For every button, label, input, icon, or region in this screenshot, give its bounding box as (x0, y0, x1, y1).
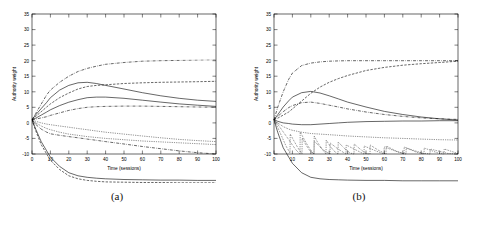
x-ticklabel: 100 (212, 157, 220, 162)
y-ticks-a (32, 14, 216, 154)
y-ticklabel: 20 (266, 59, 272, 64)
caption-a: (a) (6, 190, 228, 202)
y-ticklabel: -10 (22, 152, 29, 157)
axes-frame-a (32, 14, 216, 154)
x-ticks-b (274, 14, 458, 154)
curves-a (32, 60, 216, 183)
x-ticklabel: 40 (345, 157, 351, 162)
x-ticklabel: 0 (31, 157, 34, 162)
plot-a: -10 -5 0 5 10 15 20 25 30 35 (6, 6, 228, 186)
y-ticklabel: 25 (24, 43, 30, 48)
x-ticklabel: 40 (103, 157, 109, 162)
y-ticklabel: 30 (266, 27, 272, 32)
y-axis-label: Authority weight (12, 66, 17, 101)
y-ticklabel: 25 (266, 43, 272, 48)
x-ticklabel: 60 (382, 157, 388, 162)
panel-b: -10 -5 0 5 10 15 20 25 30 35 (248, 6, 470, 186)
x-ticklabel: 80 (419, 157, 425, 162)
x-ticklabels-b: 0 10 20 30 40 50 60 70 80 90 100 (273, 157, 463, 162)
x-ticklabel: 80 (177, 157, 183, 162)
figure: -10 -5 0 5 10 15 20 25 30 35 (0, 0, 480, 227)
x-ticklabel: 30 (327, 157, 333, 162)
y-ticklabel: -5 (267, 136, 272, 141)
x-ticklabel: 50 (121, 157, 127, 162)
y-ticklabel: 10 (24, 90, 30, 95)
y-ticklabels-b: -10 -5 0 5 10 15 20 25 30 35 (264, 12, 271, 157)
x-ticklabels-a: 0 10 20 30 40 50 60 70 80 90 100 (31, 157, 221, 162)
y-ticklabel: 0 (26, 121, 29, 126)
y-ticklabel: 30 (24, 27, 30, 32)
x-ticklabel: 20 (308, 157, 314, 162)
x-axis-label: Time (sessions) (107, 166, 141, 171)
y-ticklabels-a: -10 -5 0 5 10 15 20 25 30 35 (22, 12, 29, 157)
y-ticklabel: -10 (264, 152, 271, 157)
caption-b: (b) (248, 190, 470, 202)
x-axis-label: Time (sessions) (349, 166, 383, 171)
x-ticklabel: 100 (454, 157, 462, 162)
y-ticklabel: 0 (268, 121, 271, 126)
axes-frame-b (274, 14, 458, 154)
x-ticklabel: 0 (273, 157, 276, 162)
x-ticklabel: 70 (400, 157, 406, 162)
y-axis-label: Authority weight (254, 66, 259, 101)
x-ticklabel: 20 (66, 157, 72, 162)
x-ticklabel: 70 (158, 157, 164, 162)
panel-a: -10 -5 0 5 10 15 20 25 30 35 (6, 6, 228, 186)
plot-b: -10 -5 0 5 10 15 20 25 30 35 (248, 6, 470, 186)
curves-b (274, 61, 458, 181)
y-ticklabel: -5 (25, 136, 30, 141)
x-ticklabel: 90 (437, 157, 443, 162)
y-ticklabel: 20 (24, 59, 30, 64)
y-ticklabel: 5 (26, 105, 29, 110)
y-ticklabel: 10 (266, 90, 272, 95)
x-ticklabel: 10 (290, 157, 296, 162)
x-ticklabel: 90 (195, 157, 201, 162)
y-ticks-b (274, 14, 458, 154)
y-ticklabel: 35 (266, 12, 272, 17)
x-ticks-a (32, 14, 216, 154)
y-ticklabel: 35 (24, 12, 30, 17)
x-ticklabel: 30 (85, 157, 91, 162)
y-ticklabel: 15 (24, 74, 30, 79)
x-ticklabel: 60 (140, 157, 146, 162)
x-ticklabel: 50 (363, 157, 369, 162)
y-ticklabel: 5 (268, 105, 271, 110)
y-ticklabel: 15 (266, 74, 272, 79)
